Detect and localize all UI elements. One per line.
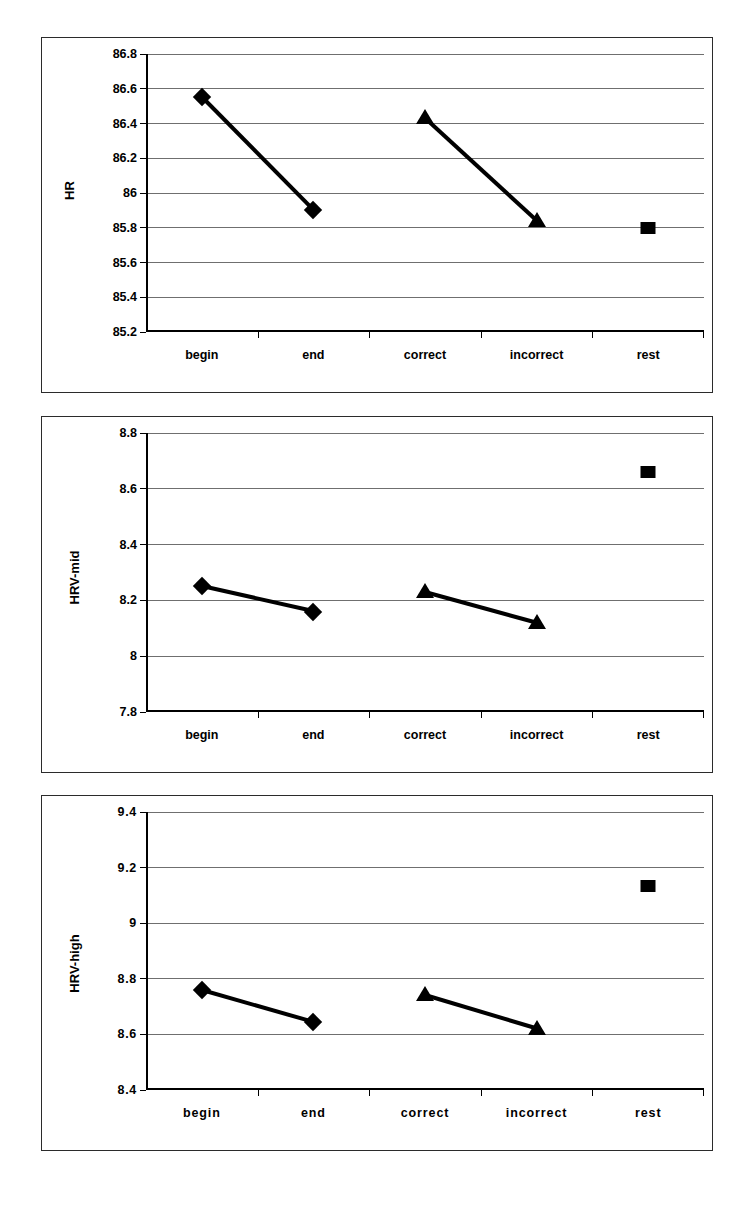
x-axis-line bbox=[146, 710, 704, 712]
x-axis-tick-label: correct bbox=[404, 348, 446, 362]
x-axis-tick bbox=[258, 1090, 259, 1096]
y-axis-tick-label: 86.2 bbox=[113, 151, 137, 165]
chart-panel-hrv-mid: HRV-mid 7.888.28.48.68.8beginendcorrecti… bbox=[41, 416, 713, 773]
gridline bbox=[146, 262, 704, 263]
y-axis-tick-label: 8.6 bbox=[118, 1027, 137, 1041]
x-axis-tick bbox=[369, 1090, 370, 1096]
y-axis-tick-label: 8.8 bbox=[118, 972, 137, 986]
x-axis-tick bbox=[481, 332, 482, 338]
x-axis-tick-label: incorrect bbox=[510, 728, 564, 742]
gridline bbox=[146, 656, 704, 657]
x-axis-tick-label: correct bbox=[404, 728, 446, 742]
x-axis-tick bbox=[592, 332, 593, 338]
series-connector-line bbox=[424, 590, 537, 625]
y-axis-line bbox=[146, 433, 148, 712]
y-axis-tick-label: 8.2 bbox=[120, 593, 137, 607]
data-point-triangle bbox=[416, 583, 434, 598]
gridline bbox=[146, 1034, 704, 1035]
x-axis-tick bbox=[369, 332, 370, 338]
y-axis-tick-label: 8 bbox=[130, 649, 137, 663]
data-point-triangle bbox=[528, 614, 546, 629]
y-axis-tick-label: 9 bbox=[129, 916, 137, 930]
gridline bbox=[146, 544, 704, 545]
y-axis-tick-label: 8.8 bbox=[120, 426, 137, 440]
x-axis-tick-label: end bbox=[302, 728, 324, 742]
series-connector-line bbox=[424, 117, 538, 222]
plot-inner: 7.888.28.48.68.8beginendcorrectincorrect… bbox=[146, 433, 704, 712]
x-axis-tick-label: begin bbox=[183, 1106, 221, 1120]
plot-inner: 85.285.485.685.88686.286.486.686.8begine… bbox=[146, 54, 704, 332]
y-axis-tick-label: 9.2 bbox=[118, 861, 137, 875]
y-axis-title: HRV-mid bbox=[67, 548, 82, 608]
x-axis-tick-label: incorrect bbox=[506, 1106, 568, 1120]
gridline bbox=[146, 488, 704, 489]
data-point-triangle bbox=[416, 986, 434, 1001]
x-axis-tick bbox=[481, 712, 482, 718]
data-point-diamond bbox=[193, 577, 211, 595]
gridline bbox=[146, 812, 704, 813]
plot-area: 8.48.68.899.29.4beginendcorrectincorrect… bbox=[146, 812, 704, 1090]
plot-area: 7.888.28.48.68.8beginendcorrectincorrect… bbox=[146, 433, 704, 712]
y-axis-tick-label: 85.6 bbox=[113, 256, 137, 270]
data-point-diamond bbox=[304, 602, 322, 620]
y-axis-tick-label: 9.4 bbox=[118, 805, 137, 819]
plot-area: 85.285.485.685.88686.286.486.686.8begine… bbox=[146, 54, 704, 332]
x-axis-line bbox=[146, 1088, 704, 1090]
gridline bbox=[146, 600, 704, 601]
x-axis-tick bbox=[592, 1090, 593, 1096]
y-axis-tick-label: 85.2 bbox=[113, 325, 137, 339]
gridline bbox=[146, 88, 704, 89]
gridline bbox=[146, 867, 704, 868]
y-axis-tick-label: 8.6 bbox=[120, 482, 137, 496]
x-axis-tick-label: end bbox=[302, 348, 324, 362]
data-point-diamond bbox=[304, 1013, 322, 1031]
data-point-square bbox=[641, 222, 656, 234]
x-axis-tick bbox=[703, 332, 704, 338]
gridline bbox=[146, 978, 704, 979]
x-axis-tick bbox=[258, 332, 259, 338]
data-point-triangle bbox=[416, 109, 434, 124]
data-point-diamond bbox=[193, 981, 211, 999]
x-axis-tick-label: begin bbox=[185, 348, 218, 362]
x-axis-line bbox=[146, 330, 704, 332]
series-connector-line bbox=[424, 994, 537, 1031]
series-connector-line bbox=[200, 96, 314, 212]
gridline bbox=[146, 158, 704, 159]
y-axis-tick-label: 8.4 bbox=[118, 1083, 137, 1097]
y-axis-tick-label: 86.6 bbox=[113, 82, 137, 96]
gridline bbox=[146, 193, 704, 194]
x-axis-tick bbox=[258, 712, 259, 718]
chart-panel-hrv-high: HRV-high 8.48.68.899.29.4beginendcorrect… bbox=[41, 795, 713, 1151]
y-axis-tick-label: 85.4 bbox=[113, 290, 137, 304]
x-axis-tick-label: rest bbox=[635, 1106, 662, 1120]
y-axis-tick-label: 85.8 bbox=[113, 221, 137, 235]
x-axis-tick-label: begin bbox=[185, 728, 218, 742]
x-axis-tick bbox=[703, 1090, 704, 1096]
y-axis-tick-label: 8.4 bbox=[120, 538, 137, 552]
data-point-square bbox=[641, 880, 656, 892]
gridline bbox=[146, 227, 704, 228]
y-axis-title: HR bbox=[62, 161, 77, 221]
x-axis-tick-label: rest bbox=[637, 348, 660, 362]
x-axis-tick-label: incorrect bbox=[510, 348, 564, 362]
x-axis-tick-label: correct bbox=[401, 1106, 450, 1120]
chart-panel-hr: HR 85.285.485.685.88686.286.486.686.8beg… bbox=[41, 37, 713, 393]
y-axis-tick-label: 7.8 bbox=[120, 705, 137, 719]
x-axis-tick bbox=[592, 712, 593, 718]
x-axis-tick bbox=[369, 712, 370, 718]
gridline bbox=[146, 923, 704, 924]
y-axis-tick-label: 86.8 bbox=[113, 47, 137, 61]
y-axis-tick-label: 86.4 bbox=[113, 117, 137, 131]
gridline bbox=[146, 433, 704, 434]
y-axis-line bbox=[146, 54, 148, 332]
figure-page: HR 85.285.485.685.88686.286.486.686.8beg… bbox=[0, 0, 745, 1214]
x-axis-tick-label: end bbox=[301, 1106, 326, 1120]
gridline bbox=[146, 297, 704, 298]
x-axis-tick-label: rest bbox=[637, 728, 660, 742]
x-axis-tick bbox=[703, 712, 704, 718]
gridline bbox=[146, 54, 704, 55]
y-axis-line bbox=[146, 812, 148, 1090]
x-axis-tick bbox=[481, 1090, 482, 1096]
data-point-triangle bbox=[528, 1020, 546, 1035]
data-point-square bbox=[641, 466, 656, 478]
